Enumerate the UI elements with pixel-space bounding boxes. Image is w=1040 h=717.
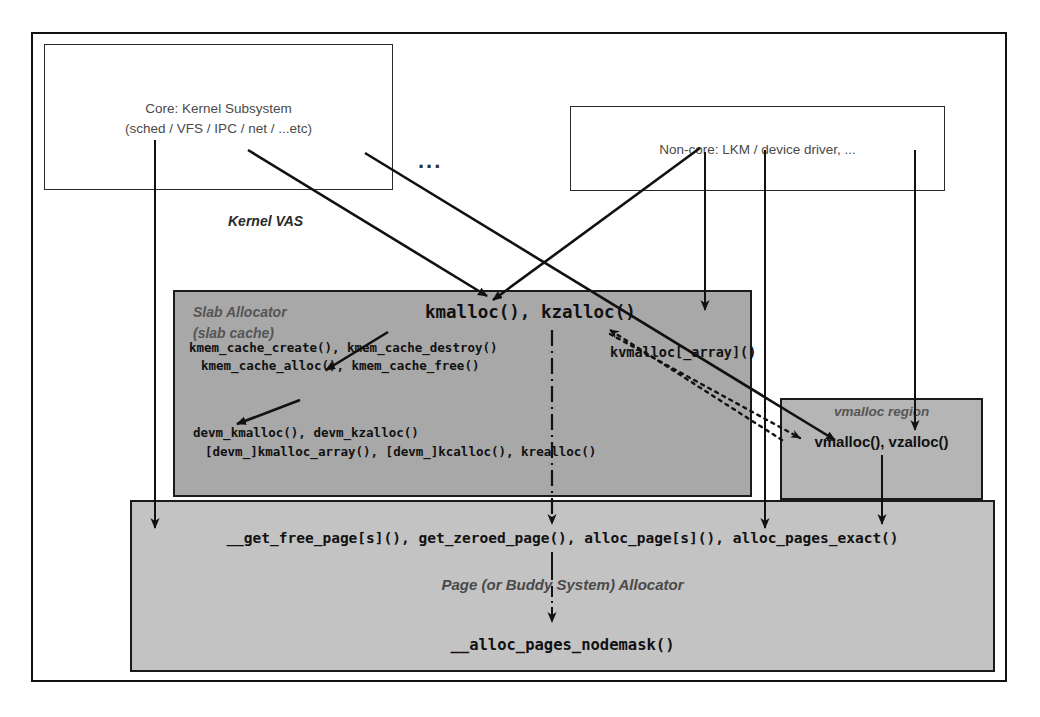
kernel-vas-label: Kernel VAS xyxy=(228,213,303,229)
alloc-pages-nodemask-label: __alloc_pages_nodemask() xyxy=(132,636,993,654)
kmem-cache-create-destroy-label: kmem_cache_create(), kmem_cache_destroy(… xyxy=(189,340,498,355)
core-kernel-subsystem-box: Core: Kernel Subsystem (sched / VFS / IP… xyxy=(44,44,393,190)
ellipsis-marker: ... xyxy=(418,148,442,174)
kmalloc-api-label: kmalloc(), kzalloc() xyxy=(425,302,636,322)
slab-allocator-region: Slab Allocator (slab cache) kmalloc(), k… xyxy=(173,290,752,497)
slab-allocator-header: Slab Allocator (slab cache) xyxy=(193,302,287,344)
devm-kmalloc-label: devm_kmalloc(), devm_kzalloc() xyxy=(193,425,419,440)
non-core-box-label: Non-core: LKM / device driver, ... xyxy=(571,140,944,160)
page-allocator-region: __get_free_page[s](), get_zeroed_page(),… xyxy=(130,500,995,672)
non-core-label-line1: Non-core: LKM / device driver, ... xyxy=(571,140,944,160)
vmalloc-region-header: vmalloc region xyxy=(834,404,929,419)
slab-header-line1: Slab Allocator xyxy=(193,302,287,323)
vmalloc-region: vmalloc region vmalloc(), vzalloc() xyxy=(780,398,983,500)
vmalloc-vzalloc-label: vmalloc(), vzalloc() xyxy=(782,433,981,450)
kmem-cache-alloc-free-label: kmem_cache_alloc(), kmem_cache_free() xyxy=(201,358,479,373)
non-core-lkm-box: Non-core: LKM / device driver, ... xyxy=(570,106,945,191)
diagram-canvas: Core: Kernel Subsystem (sched / VFS / IP… xyxy=(0,0,1040,717)
kmalloc-array-kcalloc-label: [devm_]kmalloc_array(), [devm_]kcalloc()… xyxy=(205,444,596,459)
core-box-label: Core: Kernel Subsystem (sched / VFS / IP… xyxy=(45,99,392,139)
core-label-line2: (sched / VFS / IPC / net / ...etc) xyxy=(45,119,392,139)
core-label-line1: Core: Kernel Subsystem xyxy=(45,99,392,119)
kvmalloc-array-label: kvmalloc[_array]() xyxy=(610,344,756,360)
page-allocator-api-label: __get_free_page[s](), get_zeroed_page(),… xyxy=(132,530,993,546)
page-allocator-header: Page (or Buddy System) Allocator xyxy=(132,576,993,593)
